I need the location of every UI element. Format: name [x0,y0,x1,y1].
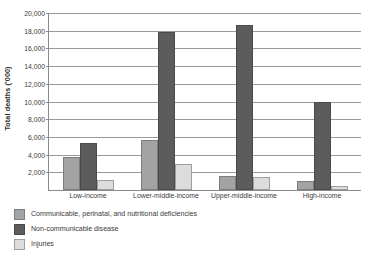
bar [175,164,192,190]
bar [314,102,331,191]
bar [63,157,80,190]
bar [253,177,270,190]
legend-item: Communicable, perinatal, and nutritional… [14,208,197,220]
bar-group [205,13,283,190]
legend-label: Communicable, perinatal, and nutritional… [31,210,197,218]
bar-group [283,13,361,190]
legend-swatch [14,209,25,220]
y-tick-label: 16,000 [24,45,45,52]
bar [80,143,97,190]
x-axis-labels: Low-incomeLower-middle-incomeUpper-middl… [49,192,361,199]
legend-label: Injuries [31,240,54,248]
x-axis-label: Low-income [49,192,127,199]
bar [331,186,348,190]
plot-area: 20,00018,00016,00014,00012,00010,0008,00… [48,13,361,191]
bars-layer [49,13,361,190]
y-tick-label: 14,000 [24,63,45,70]
bar [236,25,253,190]
y-axis-title-text: Total deaths ('000) [3,66,12,130]
legend-label: Non-communicable disease [31,225,119,233]
bar [219,176,236,190]
y-axis-title: Total deaths ('000) [0,0,14,196]
y-tick-label: 4,000 [28,151,45,158]
bar [141,140,158,190]
y-tick-label: 20,000 [24,10,45,17]
bar [297,181,314,190]
x-axis-label: High-income [283,192,361,199]
chart-legend: Communicable, perinatal, and nutritional… [14,208,197,250]
y-tick-label: 8,000 [28,116,45,123]
x-axis-label: Lower-middle-income [127,192,205,199]
legend-item: Non-communicable disease [14,223,197,235]
bar-group [49,13,127,190]
bar [158,32,175,190]
y-tick-label: 6,000 [28,133,45,140]
y-tick-label: 10,000 [24,98,45,105]
legend-swatch [14,239,25,250]
x-axis-label: Upper-middle-income [205,192,283,199]
legend-swatch [14,224,25,235]
bar-group [127,13,205,190]
bar [97,180,114,190]
legend-item: Injuries [14,238,197,250]
y-tick-label: 2,000 [28,169,45,176]
y-tick-label: 18,000 [24,27,45,34]
y-tick-label: 12,000 [24,80,45,87]
grouped-bar-chart: Total deaths ('000) 20,00018,00016,00014… [0,0,368,268]
